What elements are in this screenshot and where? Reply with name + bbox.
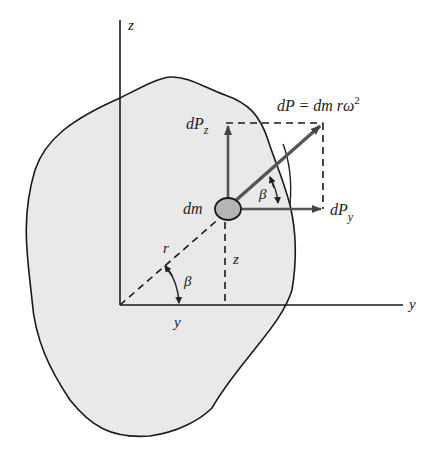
z-axis-label: z: [127, 17, 134, 33]
z-distance-label: z: [232, 251, 239, 267]
angle-label-mass: β: [258, 186, 267, 202]
rigid-body-rotation-diagram: z y r z y β β dm dP = dm rω2 dPz dPy: [0, 0, 431, 456]
rigid-body-outline: [26, 77, 295, 436]
y-distance-label: y: [172, 314, 181, 330]
mass-element: [215, 198, 241, 220]
radius-label: r: [163, 240, 169, 256]
angle-label-origin: β: [183, 273, 192, 289]
mass-element-label: dm: [183, 200, 203, 217]
y-axis-label: y: [407, 296, 416, 312]
force-y-label: dPy: [330, 201, 354, 224]
force-total-label: dP = dm rω2: [277, 94, 360, 114]
